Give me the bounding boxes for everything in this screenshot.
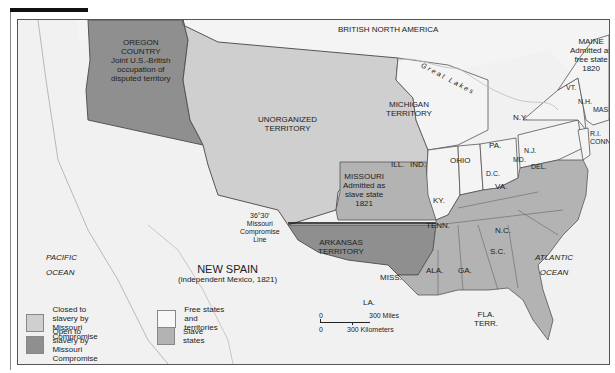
label-sc: S.C.: [490, 247, 506, 256]
label-fla: FLA. TERR.: [474, 310, 498, 328]
label-la: LA.: [363, 298, 375, 307]
label-nc: N.C.: [495, 226, 511, 235]
label-maine: MAINE Admitted as free state 1820: [570, 37, 610, 73]
label-ohio: OHIO: [450, 156, 470, 165]
swatch-slave: [157, 327, 175, 345]
label-nj: N.J.: [524, 147, 536, 155]
label-ri: R.I.: [590, 130, 601, 138]
label-new-spain: NEW SPAIN (independent Mexico, 1821): [178, 263, 277, 284]
label-tenn: TENN.: [426, 221, 450, 230]
label-ny: N.Y.: [513, 113, 528, 122]
label-missouri: MISSOURI Admitted as slave state 1821: [343, 172, 385, 208]
scale-line: [320, 322, 370, 323]
legend-item-slave: Slave states: [157, 327, 212, 345]
label-michigan: MICHIGAN TERRITORY: [386, 100, 432, 118]
label-compromise-line: 36°30' Missouri Compromise Line: [240, 212, 280, 244]
scale-bar: 0 300 Miles 0 300 Kilometers: [319, 312, 449, 342]
map-canvas: [18, 20, 609, 364]
label-dc: D.C.: [486, 170, 500, 178]
label-pacific-ocean: PACIFIC OCEAN: [46, 253, 77, 277]
margin-rule: [10, 12, 11, 370]
state-ind: [458, 144, 483, 195]
label-va: VA.: [495, 182, 507, 191]
legend-item-open: Open to slavery byMissouri Compromise: [26, 327, 105, 363]
label-ala: ALA.: [426, 266, 443, 275]
label-nh: N.H.: [578, 98, 592, 106]
label-pa: PA.: [489, 141, 501, 150]
label-vt: VT.: [566, 84, 576, 92]
label-miss: MISS.: [380, 273, 402, 282]
label-ind: IND.: [410, 160, 426, 169]
label-british-north-america: BRITISH NORTH AMERICA: [338, 25, 438, 34]
label-ky: KY.: [433, 196, 445, 205]
label-del: DEL.: [531, 163, 547, 171]
swatch-open: [26, 336, 44, 354]
label-ill: ILL.: [391, 160, 404, 169]
map-frame: OREGON COUNTRY Joint U.S.-British occupa…: [17, 19, 610, 365]
label-md: MD.: [513, 156, 526, 164]
label-conn: CONN.: [590, 138, 610, 146]
label-oregon: OREGON COUNTRY Joint U.S.-British occupa…: [111, 38, 171, 83]
swatch-free: [157, 310, 176, 328]
label-mass: MASS.: [593, 106, 610, 114]
header-rule: [10, 8, 88, 12]
label-arkansas: ARKANSAS TERRITORY: [318, 238, 364, 256]
label-atlantic-ocean: ATLANTIC OCEAN: [535, 253, 573, 277]
label-ga: GA.: [458, 266, 472, 275]
label-unorganized-territory: UNORGANIZED TERRITORY: [258, 115, 317, 133]
